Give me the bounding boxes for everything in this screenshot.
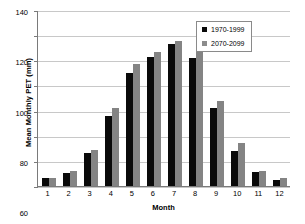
x-axis-tick-label: 10 xyxy=(227,189,248,198)
x-axis-tick-label: 8 xyxy=(185,189,206,198)
y-axis-tick: 0 xyxy=(34,187,38,188)
y-axis-tick-label: 140 xyxy=(15,8,28,17)
y-axis-title: Mean Monthly PET (mm) xyxy=(24,28,33,178)
bar xyxy=(91,150,98,186)
bar-group xyxy=(80,11,101,186)
legend-item: 1970-1999 xyxy=(202,26,244,33)
x-axis-title: Month xyxy=(37,203,290,212)
bar xyxy=(273,180,280,186)
bar xyxy=(112,108,119,186)
bar xyxy=(259,171,266,186)
x-axis-tick-label: 11 xyxy=(248,189,269,198)
x-axis-tick-label: 1 xyxy=(37,189,58,198)
x-axis-tick-label: 3 xyxy=(79,189,100,198)
bar xyxy=(238,143,245,186)
bar xyxy=(84,153,91,186)
y-axis-tick-label: 60 xyxy=(20,209,28,218)
bar-group xyxy=(269,11,290,186)
x-axis-tick-label: 2 xyxy=(58,189,79,198)
bar xyxy=(133,64,140,186)
bar-group xyxy=(101,11,122,186)
legend-swatch-icon xyxy=(202,27,207,32)
bar-chart: Mean Monthly PET (mm) 020406080100120140… xyxy=(0,0,305,224)
legend-label: 1970-1999 xyxy=(211,26,244,33)
bar xyxy=(49,178,56,186)
legend-label: 2070-2099 xyxy=(211,40,244,47)
x-axis-tick-label: 7 xyxy=(163,189,184,198)
bar xyxy=(210,108,217,186)
bar-group xyxy=(122,11,143,186)
x-axis-tick-label: 9 xyxy=(206,189,227,198)
bar xyxy=(189,58,196,186)
gridline xyxy=(38,187,290,188)
bar-group xyxy=(59,11,80,186)
legend-swatch-icon xyxy=(202,41,207,46)
bar xyxy=(154,52,161,187)
bar-group xyxy=(164,11,185,186)
legend-item: 2070-2099 xyxy=(202,40,244,47)
bar-group xyxy=(38,11,59,186)
bar xyxy=(147,57,154,186)
bar xyxy=(63,173,70,186)
x-axis-tick-label: 5 xyxy=(121,189,142,198)
x-axis-tick-labels: 123456789101112 xyxy=(37,189,290,198)
bar xyxy=(280,178,287,186)
x-axis-tick-label: 12 xyxy=(269,189,290,198)
x-axis-tick-label: 4 xyxy=(100,189,121,198)
bar xyxy=(196,52,203,187)
legend: 1970-1999 2070-2099 xyxy=(196,21,252,52)
bar xyxy=(252,172,259,186)
y-axis-tick-label: 80 xyxy=(20,158,28,167)
bar xyxy=(105,116,112,186)
bar xyxy=(231,151,238,186)
y-axis-tick-label: 100 xyxy=(15,108,28,117)
bar xyxy=(217,101,224,186)
bar xyxy=(168,44,175,186)
bar-group xyxy=(143,11,164,186)
bar xyxy=(70,171,77,186)
bar xyxy=(175,41,182,186)
y-axis-tick-label: 120 xyxy=(15,58,28,67)
bar xyxy=(42,178,49,186)
bar xyxy=(126,73,133,186)
x-axis-tick-label: 6 xyxy=(142,189,163,198)
